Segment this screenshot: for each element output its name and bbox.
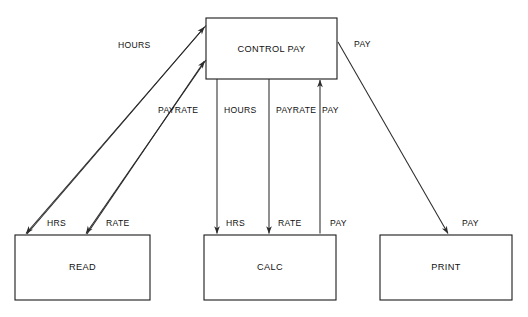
flow-line-pay-print-down xyxy=(338,42,448,234)
flow-label-pay-calc: PAY xyxy=(330,218,347,228)
structure-chart-diagram: CONTROL PAY READ CALC PRINT HOUR xyxy=(0,0,528,317)
flow-label-hours-down: HOURS xyxy=(224,105,257,115)
flow-label-payrate-down: PAYRATE xyxy=(276,105,316,115)
flow-label-pay-up-calc: PAY xyxy=(322,105,339,115)
module-label-read: READ xyxy=(69,262,96,272)
module-print[interactable]: PRINT xyxy=(380,235,512,300)
module-label-control-pay: CONTROL PAY xyxy=(238,44,306,54)
flow-label-hrs-calc: HRS xyxy=(226,218,245,228)
module-calc[interactable]: CALC xyxy=(204,235,336,300)
flow-label-rate-calc: RATE xyxy=(278,218,301,228)
flow-line-hrs-down xyxy=(26,26,206,234)
flow-label-pay-down-print: PAY xyxy=(354,39,371,49)
flow-label-pay-print: PAY xyxy=(462,218,479,228)
module-read[interactable]: READ xyxy=(15,235,150,300)
module-label-print: PRINT xyxy=(431,262,460,272)
flow-line-rate-down xyxy=(86,60,206,234)
structure-chart-canvas: CONTROL PAY READ CALC PRINT HOUR xyxy=(0,0,528,317)
flow-label-hrs-read: HRS xyxy=(47,218,66,228)
module-label-calc: CALC xyxy=(257,262,283,272)
flow-label-rate-read: RATE xyxy=(106,218,129,228)
flow-label-hours-up: HOURS xyxy=(118,40,151,50)
flow-label-payrate-up: PAYRATE xyxy=(158,105,198,115)
module-control-pay[interactable]: CONTROL PAY xyxy=(206,18,337,79)
